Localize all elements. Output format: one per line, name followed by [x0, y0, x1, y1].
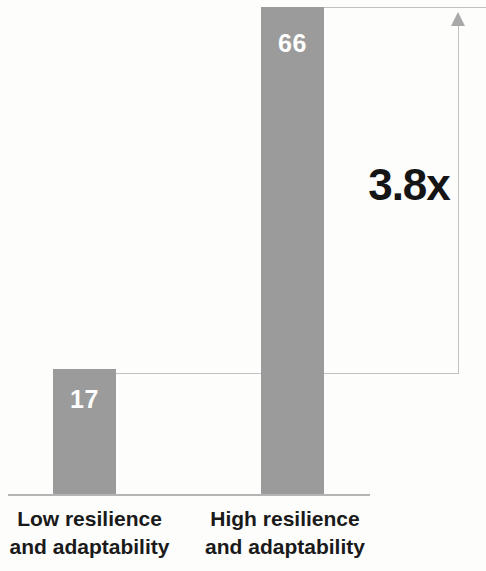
category-label-low-line1: Low resilience	[17, 507, 162, 530]
category-label-low: Low resilience and adaptability	[0, 505, 187, 561]
bar-value-label-low: 17	[53, 385, 116, 414]
plot-area: 17 66 3.8x	[0, 0, 486, 500]
category-label-high: High resilience and adaptability	[185, 505, 385, 561]
x-axis-line	[8, 494, 370, 496]
category-label-low-line2: and adaptability	[0, 533, 187, 561]
bar-value-label-high: 66	[261, 29, 324, 58]
category-label-high-line1: High resilience	[210, 507, 359, 530]
multiplier-callout: 3.8x	[361, 160, 457, 210]
bracket-vertical-line	[458, 16, 459, 374]
bar-low-resilience: 17	[53, 369, 116, 495]
category-labels: Low resilience and adaptability High res…	[0, 505, 486, 571]
bar-high-resilience: 66	[261, 7, 324, 495]
bar-chart: 17 66 3.8x Low resilience and adaptabili…	[0, 0, 486, 571]
arrow-up-icon	[451, 12, 465, 26]
bracket-top-line	[323, 7, 486, 8]
category-label-high-line2: and adaptability	[185, 533, 385, 561]
